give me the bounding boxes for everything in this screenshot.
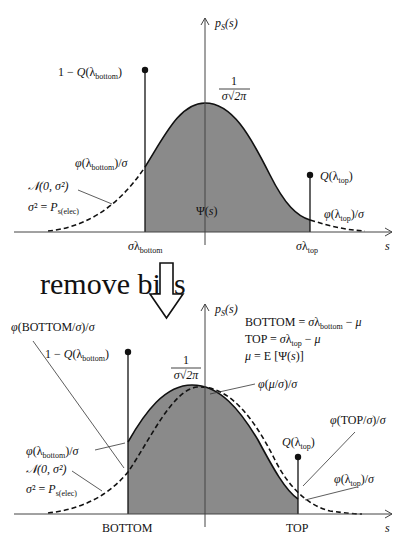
bottom-normal-label: 𝒩(0, σ²) [26,462,67,476]
bottom-normal-leader [72,471,102,491]
bottom-phi-TOP-label: φ(TOP/σ)/σ [330,413,387,427]
bottom-phi-top-label: φ(λtop)/σ [334,472,375,488]
bottom-def-mu: μ = E [Ψ(s)] [244,349,304,363]
top-stem-top-dot [307,172,313,178]
bottom-tick-top: TOP [286,521,309,535]
top-area-label: Ψ(s) [196,204,218,218]
top-y-axis-label: pS(s) [214,16,238,32]
top-peak-denominator: σ√2π [222,89,248,103]
top-phi-top-label: φ(λtop)/σ [324,207,365,223]
top-tick-bottom: σλbottom [128,239,163,255]
bottom-phi-bottom-label: φ(λbottom)/σ [26,444,79,460]
bottom-def-top: TOP = σλtop − μ [245,332,321,348]
top-peak-numerator: 1 [231,74,237,88]
top-psi-area [145,103,310,232]
top-stem-bottom-label: 1 − Q(λbottom) [58,65,122,81]
bottom-variance-label: σ² = Ps(elec) [26,482,77,498]
bottom-tick-bottom: BOTTOM [102,521,153,535]
bottom-phi-BOTTOM-label: φ(BOTTOM/σ)/σ [11,320,96,334]
bottom-diagram: pS(s) s 1 σ√2π BOTTOM = σλbottom − μ TOP… [11,302,392,535]
bottom-stem-bottom-label: 1 − Q(λbottom) [45,347,109,363]
transition: remove bias [40,263,186,318]
bottom-y-axis-label: pS(s) [214,302,238,318]
bottom-peak-denominator: σ√2π [174,368,200,382]
bottom-peak-numerator: 1 [183,353,189,367]
top-variance-label: σ² = Ps(elec) [28,200,79,216]
bottom-stem-top-dot [295,454,301,460]
top-x-axis-label: s [385,239,390,253]
diagram-canvas: pS(s) s 1 σ√2π 1 − Q(λbottom) Q(λtop) φ(… [0,0,412,548]
bottom-phi-mu-leader [210,384,255,394]
top-phi-bottom-label: φ(λbottom)/σ [75,156,128,172]
bottom-x-axis-label: s [385,521,390,535]
bottom-stem-top-label: Q(λtop) [282,435,315,451]
top-stem-top-label: Q(λtop) [320,169,353,185]
bottom-def-bottom: BOTTOM = σλbottom − μ [245,315,361,331]
top-gaussian-tail-right [310,220,365,231]
top-stem-bottom-dot [142,67,148,73]
bottom-phi-mu-label: φ(μ/σ)/σ [258,377,298,391]
top-diagram: pS(s) s 1 σ√2π 1 − Q(λbottom) Q(λtop) φ(… [14,16,392,255]
top-gaussian-tail-left [48,167,145,231]
bottom-phi-top-leader [305,487,357,500]
top-normal-leader [78,190,112,204]
bottom-stem-bottom-dot [125,349,131,355]
top-tick-top: σλtop [296,239,318,255]
top-normal-label: 𝒩(0, σ²) [28,179,69,193]
